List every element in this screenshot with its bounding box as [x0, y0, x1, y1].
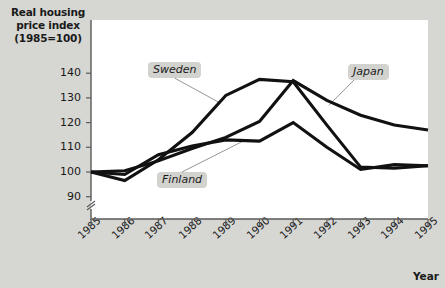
series-line-japan — [91, 81, 428, 172]
chart-root: Real housing price index (1985=100) 9010… — [0, 0, 445, 288]
data-series-group — [91, 79, 428, 180]
chart-svg — [0, 0, 445, 288]
